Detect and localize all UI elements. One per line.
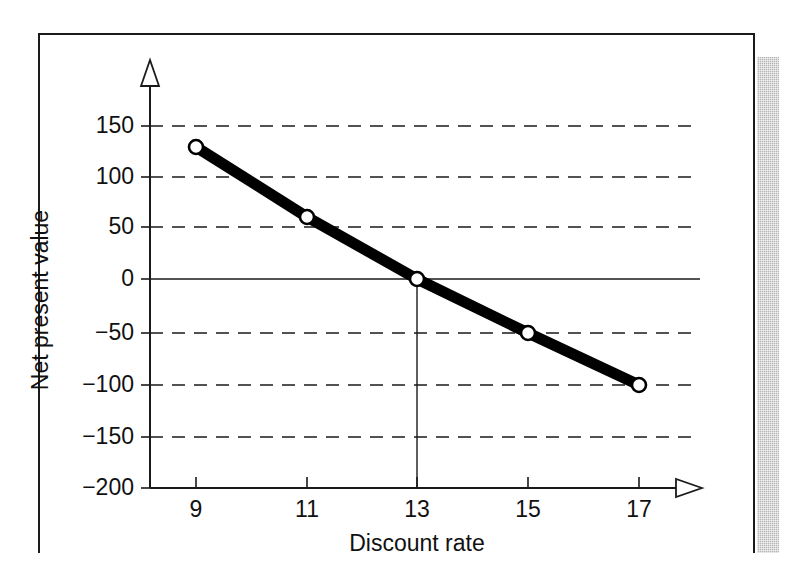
y-axis-title: Net present value <box>27 210 53 390</box>
x-tick-label-9: 9 <box>190 496 203 522</box>
x-axis-title: Discount rate <box>349 530 485 556</box>
data-point-9 <box>189 140 203 154</box>
npv-line-chart: 150 100 50 0 −50 −100 −150 −200 9 11 13 … <box>0 0 806 578</box>
y-tick-label-100: 100 <box>96 163 134 189</box>
y-axis <box>141 60 159 488</box>
figure-page: 150 100 50 0 −50 −100 −150 −200 9 11 13 … <box>0 0 806 578</box>
x-tick-label-17: 17 <box>626 496 652 522</box>
y-tick-label-0: 0 <box>121 265 134 291</box>
data-point-15 <box>521 326 535 340</box>
y-tick-label-150: 150 <box>96 112 134 138</box>
y-tick-label-neg150: −150 <box>82 423 134 449</box>
x-tick-label-15: 15 <box>515 496 541 522</box>
x-axis-arrow-icon <box>676 479 702 497</box>
y-tick-label-neg100: −100 <box>82 371 134 397</box>
y-tick-label-50: 50 <box>108 213 134 239</box>
data-point-11 <box>300 210 314 224</box>
y-axis-arrow-icon <box>141 60 159 86</box>
data-point-17 <box>632 378 646 392</box>
y-tick-labels: 150 100 50 0 −50 −100 −150 −200 <box>82 112 134 500</box>
y-tick-label-neg200: −200 <box>82 474 134 500</box>
x-tick-label-11: 11 <box>295 496 319 522</box>
x-tick-labels: 9 11 13 15 17 <box>190 496 652 522</box>
data-point-13 <box>410 272 424 286</box>
x-tick-label-13: 13 <box>404 496 430 522</box>
x-axis <box>150 477 702 497</box>
y-tick-label-neg50: −50 <box>95 319 134 345</box>
